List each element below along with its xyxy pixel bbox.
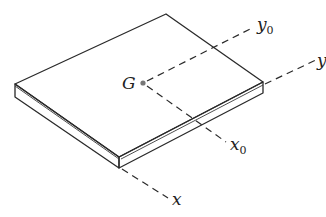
axis-y-label: y [316, 50, 326, 70]
axis-y0-label: y0 [256, 14, 274, 37]
axis-y0-line [147, 27, 254, 81]
axis-x0-label: x0 [230, 134, 247, 157]
axis-x0-line [147, 86, 226, 142]
axis-y-line [265, 60, 316, 84]
centroid-point-icon [140, 80, 145, 85]
axis-x-line [122, 169, 168, 198]
centroid-label: G [122, 73, 136, 93]
plate-top-face [15, 14, 263, 157]
plate-inner-edge-left [15, 86, 119, 159]
axis-x-label: x [172, 189, 182, 209]
plate-diagram: G y0 y x0 x [0, 0, 326, 217]
